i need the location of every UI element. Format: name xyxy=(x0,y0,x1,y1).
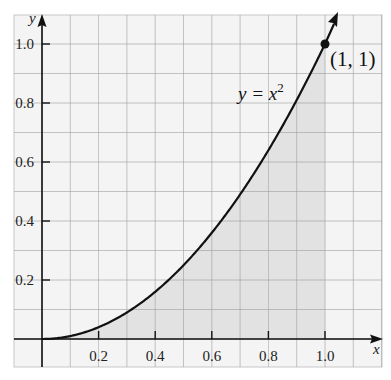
equation-label: y = x2 xyxy=(236,80,284,104)
x-axis-label: x xyxy=(372,341,380,357)
chart-canvas: 0.20.40.60.81.0 0.20.40.60.81.0 y x y = … xyxy=(0,0,391,380)
x-tick-label: 0.8 xyxy=(259,348,278,364)
x-tick-label: 0.4 xyxy=(146,348,165,364)
y-tick-label: 0.2 xyxy=(15,272,34,288)
point-label: (1, 1) xyxy=(330,47,376,71)
x-tick-label: 0.2 xyxy=(89,348,108,364)
y-tick-label: 0.8 xyxy=(15,95,34,111)
x-tick-label: 0.6 xyxy=(202,348,221,364)
y-tick-label: 1.0 xyxy=(15,36,34,52)
endpoint-dot xyxy=(321,40,330,49)
x-tick-label: 1.0 xyxy=(316,348,335,364)
y-tick-label: 0.4 xyxy=(15,213,34,229)
y-tick-label: 0.6 xyxy=(15,154,34,170)
y-axis-label: y xyxy=(27,10,36,26)
